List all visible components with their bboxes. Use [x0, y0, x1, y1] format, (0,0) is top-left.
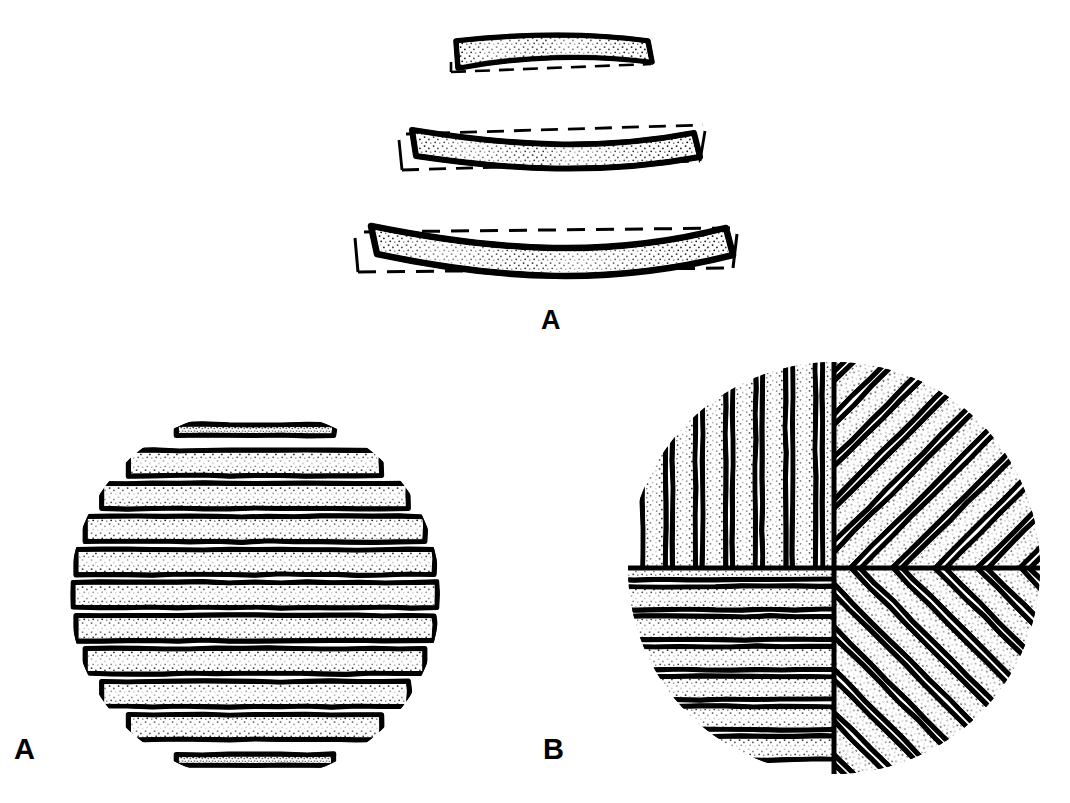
strip-stipple: [79, 618, 432, 638]
panel-label-b-bottom: B: [543, 735, 564, 764]
strip-a8: [102, 681, 410, 707]
strip-a10: [176, 754, 333, 766]
disc-parallel-strips: [70, 410, 440, 780]
strip-stipple: [179, 427, 331, 433]
strip-stipple: [131, 717, 379, 737]
strip-a3: [85, 516, 426, 543]
strip-stipple: [131, 453, 379, 473]
figure-canvas: A A B: [0, 0, 1070, 803]
panel-label-a-bottom: A: [14, 735, 35, 764]
strip-a5: [73, 582, 437, 608]
disc-a-band-group: [73, 424, 437, 766]
strip-stipple: [79, 552, 432, 572]
strip-stipple: [88, 519, 423, 539]
panel-label-a-top: A: [541, 307, 561, 334]
strip-a1: [128, 450, 381, 476]
strip-a2: [102, 483, 409, 509]
strip-a7: [85, 648, 425, 675]
strip-stipple: [88, 651, 423, 671]
strip-a6: [76, 615, 435, 641]
strip-stipple: [104, 486, 405, 506]
strip-a9: [128, 714, 381, 740]
strip-a0: [176, 424, 334, 436]
strip-a4: [76, 549, 435, 575]
strip-stipple: [76, 585, 435, 605]
strip-stipple: [104, 684, 405, 704]
figure-artwork: [0, 0, 1070, 803]
strip-stipple: [179, 757, 331, 763]
